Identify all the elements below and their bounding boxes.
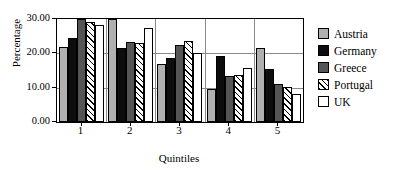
legend-swatch-austria-icon (318, 28, 329, 39)
y-axis-tick: 20.00 (6, 47, 50, 57)
legend-label: Austria (334, 28, 368, 40)
bar-group-4 (205, 19, 254, 122)
legend: AustriaGermanyGreecePortugalUK (318, 25, 416, 110)
x-axis-tickmark (81, 122, 82, 126)
y-axis-tickmark (52, 87, 56, 88)
legend-item-germany: Germany (318, 42, 416, 59)
legend-label: Greece (334, 62, 367, 74)
legend-label: Germany (334, 45, 377, 57)
bar-portugal-q4 (234, 75, 243, 122)
x-axis-label: Quintiles (56, 152, 302, 164)
bar-austria-q4 (207, 89, 216, 122)
legend-label: Portugal (334, 79, 373, 91)
bar-group-1 (57, 19, 106, 122)
plot-inner (57, 19, 303, 122)
bar-austria-q5 (256, 48, 265, 122)
bar-greece-q3 (175, 45, 184, 122)
legend-item-greece: Greece (318, 59, 416, 76)
y-axis-tickmark (52, 121, 56, 122)
bar-austria-q2 (108, 19, 117, 122)
bar-group-5 (254, 19, 303, 122)
legend-item-uk: UK (318, 93, 416, 110)
y-axis-tick: 10.00 (6, 82, 50, 92)
bar-uk-q1 (95, 25, 104, 122)
plot-area (56, 18, 304, 123)
bar-germany-q2 (117, 48, 126, 122)
bar-germany-q3 (166, 58, 175, 122)
bar-greece-q1 (77, 19, 86, 122)
bar-greece-q2 (126, 42, 135, 122)
y-axis-tick: 30.00 (6, 13, 50, 23)
bar-greece-q4 (225, 76, 234, 122)
bar-group-2 (106, 19, 155, 122)
y-axis-tick-labels: 0.0010.0020.0030.00 (6, 0, 50, 175)
bar-germany-q4 (216, 56, 225, 122)
bar-austria-q3 (157, 64, 166, 122)
x-axis-tickmark (228, 122, 229, 126)
y-axis-tickmark (52, 52, 56, 53)
x-axis-tickmark (130, 122, 131, 126)
legend-label: UK (334, 96, 351, 108)
legend-swatch-portugal-icon (318, 79, 329, 90)
bar-uk-q3 (193, 53, 202, 122)
legend-item-portugal: Portugal (318, 76, 416, 93)
legend-item-austria: Austria (318, 25, 416, 42)
x-axis-tickmark (277, 122, 278, 126)
bar-uk-q5 (292, 94, 301, 122)
legend-swatch-germany-icon (318, 45, 329, 56)
bar-portugal-q1 (86, 22, 95, 122)
legend-swatch-uk-icon (318, 96, 329, 107)
bar-portugal-q2 (135, 43, 144, 122)
legend-swatch-greece-icon (318, 62, 329, 73)
bar-portugal-q5 (283, 87, 292, 122)
bar-austria-q1 (59, 47, 68, 122)
x-axis-tickmark (179, 122, 180, 126)
bar-germany-q1 (68, 38, 77, 122)
bar-group-3 (155, 19, 204, 122)
y-axis-tickmark (52, 18, 56, 19)
bar-portugal-q3 (184, 41, 193, 122)
bar-greece-q5 (274, 84, 283, 122)
bar-germany-q5 (265, 69, 274, 122)
y-axis-tick: 0.00 (6, 116, 50, 126)
bar-chart-figure: Percentage 0.0010.0020.0030.00 12345 Qui… (0, 0, 419, 175)
bar-uk-q4 (243, 68, 252, 122)
bar-uk-q2 (144, 28, 153, 122)
